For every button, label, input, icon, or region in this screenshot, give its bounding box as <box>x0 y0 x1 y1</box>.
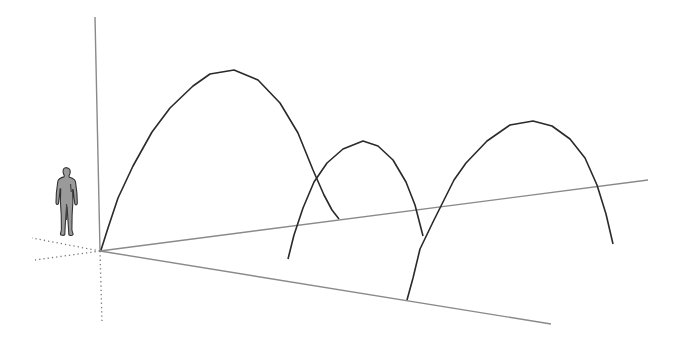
left-axis-dotted <box>32 238 100 251</box>
lower-axis <box>100 251 551 324</box>
large-arc[interactable] <box>101 70 339 250</box>
right-axis <box>100 180 648 251</box>
arcs-group <box>101 70 613 300</box>
right-arc[interactable] <box>407 121 613 300</box>
scale-figure[interactable] <box>56 168 77 236</box>
3d-viewport[interactable] <box>0 0 683 344</box>
vertical-axis <box>95 17 100 251</box>
down-axis-dotted <box>100 251 102 322</box>
person-figure-icon[interactable] <box>56 168 77 236</box>
scene-canvas[interactable] <box>0 0 683 344</box>
axes-group <box>32 17 648 324</box>
back-axis-dotted <box>35 251 100 260</box>
